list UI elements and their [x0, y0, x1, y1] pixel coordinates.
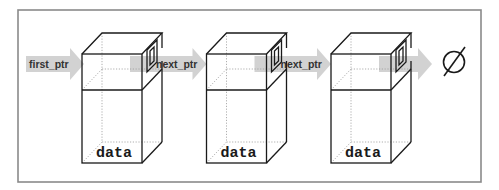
node-data-label: data [345, 145, 381, 162]
node-data-label: data [96, 145, 132, 162]
node-data-label: data [221, 145, 257, 162]
linked-list-diagram: first_ptr datanext_ptrdatanext_ptrdata [0, 0, 499, 190]
next-pointer-label: next_ptr [281, 58, 322, 70]
next-pointer-label: next_ptr [156, 58, 197, 70]
head-pointer-label: first_ptr [29, 58, 69, 70]
